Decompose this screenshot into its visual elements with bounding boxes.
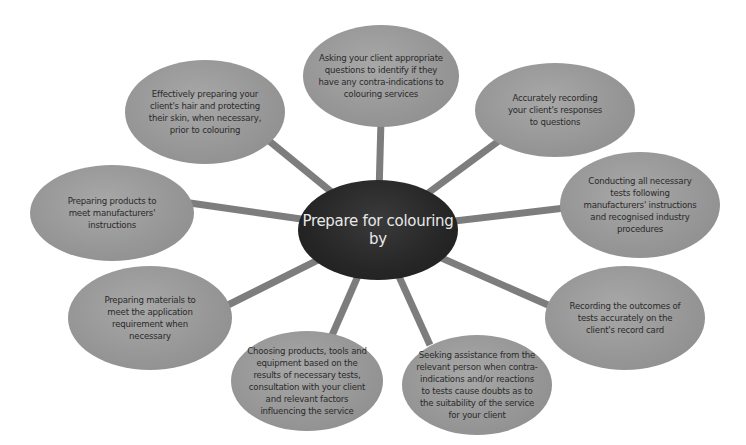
node-bottom-left-label: Preparing materials to meet the applicat…	[96, 294, 204, 342]
node-right: Conducting all necessary tests following…	[560, 152, 720, 258]
node-top: Asking your client appropriate questions…	[303, 25, 459, 127]
node-top-right: Accurately recording your client's respo…	[475, 63, 635, 157]
node-bottom-left: Preparing materials to meet the applicat…	[68, 266, 232, 370]
node-top-left: Effectively preparing your client's hair…	[125, 60, 285, 164]
node-left-label: Preparing products to meet manufacturers…	[64, 195, 160, 231]
node-bottom-center-left: Choosing products, tools and equipment b…	[231, 331, 383, 431]
node-left: Preparing products to meet manufacturers…	[30, 165, 194, 261]
node-bottom-right: Recording the outcomes of tests accurate…	[545, 266, 705, 370]
node-top-label: Asking your client appropriate questions…	[317, 52, 445, 100]
center-node: Prepare for colouring by	[298, 180, 458, 280]
center-node-line1: Prepare for colouring	[302, 212, 453, 230]
node-bottom-center-right: Seeking assistance from the relevant per…	[402, 335, 552, 435]
node-right-label: Conducting all necessary tests following…	[578, 175, 702, 235]
node-bottom-center-right-label: Seeking assistance from the relevant per…	[416, 349, 538, 421]
node-top-left-label: Effectively preparing your client's hair…	[147, 88, 263, 136]
node-bottom-center-left-label: Choosing products, tools and equipment b…	[243, 345, 371, 417]
node-bottom-right-label: Recording the outcomes of tests accurate…	[565, 300, 685, 336]
node-top-right-label: Accurately recording your client's respo…	[505, 92, 605, 128]
center-node-line2: by	[369, 230, 387, 248]
